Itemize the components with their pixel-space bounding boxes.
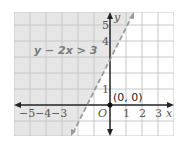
y-tick-4: 4 [102, 36, 109, 47]
x-tick-3: 3 [155, 108, 162, 119]
coordinate-plane [0, 0, 183, 155]
inequality-label: y − 2x > 3 [34, 44, 97, 57]
test-point-origin [108, 103, 113, 108]
y-tick-1: 1 [102, 84, 109, 95]
point-label: (0, 0) [113, 91, 143, 104]
origin-label: O [98, 108, 107, 119]
x-tick-neg3: −3 [51, 108, 67, 119]
y-axis-label: y [114, 12, 120, 23]
x-tick-1: 1 [123, 108, 130, 119]
x-tick-neg5: −5 [19, 108, 35, 119]
x-tick-neg4: −4 [35, 108, 51, 119]
y-tick-5: 5 [102, 20, 109, 31]
x-axis-label: x [166, 108, 172, 119]
x-tick-2: 2 [139, 108, 146, 119]
